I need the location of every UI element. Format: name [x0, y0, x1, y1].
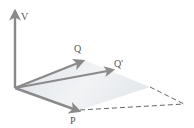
- vector-plane-diagram: V Q Q' P: [0, 0, 194, 128]
- label-q-prime: Q': [114, 58, 123, 69]
- label-v: V: [21, 11, 29, 22]
- label-q: Q: [74, 43, 82, 54]
- dashed-edge-upper: [150, 87, 184, 104]
- label-p: P: [70, 115, 76, 126]
- dashed-edge-lower: [80, 104, 184, 110]
